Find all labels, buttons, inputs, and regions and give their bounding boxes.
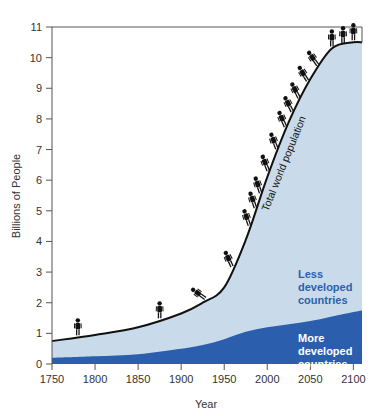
person-icon <box>74 318 81 335</box>
person-icon <box>305 49 320 67</box>
more-label-line3: countries <box>298 358 348 370</box>
y-tick-label: 5 <box>36 205 42 217</box>
less-developed-area <box>52 42 362 364</box>
person-icon <box>296 64 311 82</box>
y-tick-label: 10 <box>30 52 42 64</box>
person-icon <box>288 81 302 99</box>
y-tick-label: 2 <box>36 297 42 309</box>
person-icon <box>267 132 280 150</box>
less-label-line2: developed <box>298 281 352 293</box>
x-tick-label: 1750 <box>40 373 64 385</box>
person-icon <box>281 95 295 113</box>
y-tick-label: 8 <box>36 113 42 125</box>
more-label-line1: More <box>298 332 324 344</box>
y-tick-label: 0 <box>36 358 42 370</box>
stacked-areas <box>52 42 362 364</box>
person-icon <box>156 301 163 318</box>
less-label-line1: Less <box>298 268 323 280</box>
y-tick-label: 7 <box>36 144 42 156</box>
y-tick-label: 9 <box>36 82 42 94</box>
x-tick-label: 2000 <box>255 373 279 385</box>
y-tick-label: 1 <box>36 327 42 339</box>
x-tick-label: 1900 <box>169 373 193 385</box>
x-tick-label: 2050 <box>298 373 322 385</box>
y-tick-label: 6 <box>36 174 42 186</box>
person-icon <box>350 23 357 40</box>
person-icon <box>259 154 272 172</box>
person-icon <box>276 110 289 128</box>
population-chart: 0123456789101117501800185019001950200020… <box>0 0 382 416</box>
more-label-line2: developed <box>298 345 352 357</box>
y-tick-label: 3 <box>36 266 42 278</box>
y-tick-label: 4 <box>36 235 42 247</box>
person-icon <box>328 29 335 46</box>
x-tick-label: 2100 <box>341 373 365 385</box>
x-tick-label: 1950 <box>212 373 236 385</box>
x-axis-title: Year <box>195 398 218 410</box>
person-icon <box>340 26 347 43</box>
x-tick-label: 1850 <box>126 373 150 385</box>
x-tick-label: 1800 <box>83 373 107 385</box>
y-tick-label: 11 <box>31 21 42 33</box>
person-icon <box>189 286 207 302</box>
less-label-line3: countries <box>298 294 348 306</box>
person-icon <box>222 250 235 268</box>
y-axis-title: Billions of People <box>10 154 22 238</box>
